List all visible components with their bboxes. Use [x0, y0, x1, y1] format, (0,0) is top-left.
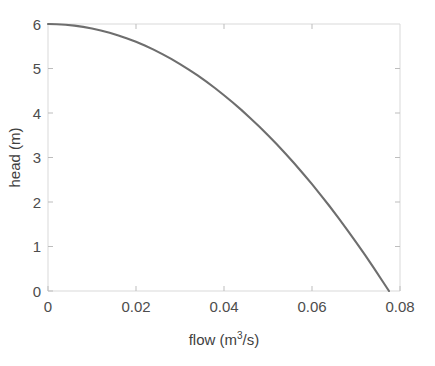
- x-tick-label: 0.04: [209, 298, 238, 315]
- x-tick-label: 0.06: [297, 298, 326, 315]
- y-tick-label: 2: [33, 194, 41, 211]
- x-axis-title-base: flow (m: [189, 331, 237, 348]
- y-tick-label: 0: [33, 283, 41, 300]
- x-tick-label: 0: [44, 298, 52, 315]
- y-tick-label: 1: [33, 238, 41, 255]
- chart-figure: 0 0.02 0.04 0.06 0.08 0 1 2 3 4 5 6 flow…: [0, 0, 435, 366]
- x-axis-title-tail: /s): [243, 331, 260, 348]
- y-axis-title-text: head (m): [6, 127, 23, 187]
- x-axis-title: flow (m3/s): [189, 330, 260, 348]
- y-tick-label: 6: [33, 16, 41, 33]
- x-tick-label: 0.08: [385, 298, 414, 315]
- y-axis-title: head (m): [6, 127, 23, 187]
- y-tick-label: 5: [33, 60, 41, 77]
- y-tick-label: 3: [33, 149, 41, 166]
- pump-head-flow-chart: 0 0.02 0.04 0.06 0.08 0 1 2 3 4 5 6 flow…: [0, 0, 435, 366]
- svg-text:flow (m3/s): flow (m3/s): [189, 330, 260, 348]
- x-tick-label: 0.02: [121, 298, 150, 315]
- y-tick-label: 4: [33, 105, 41, 122]
